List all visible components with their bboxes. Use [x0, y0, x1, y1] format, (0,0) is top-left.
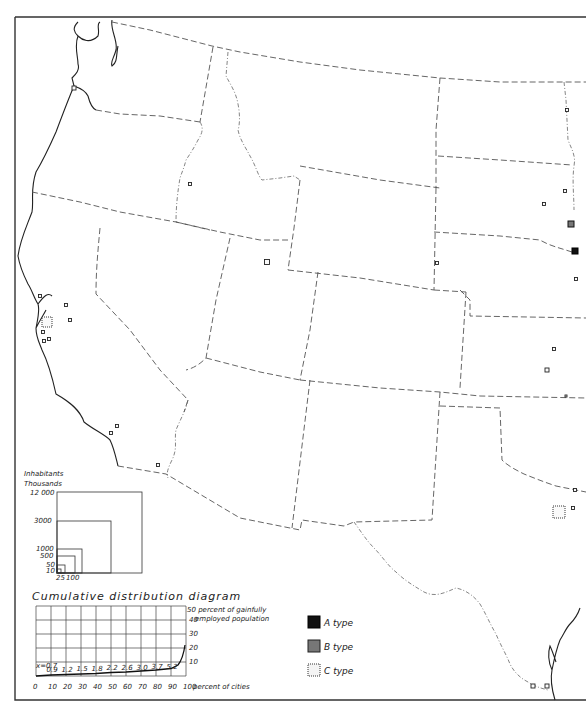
y-tick-label: 20 [189, 644, 198, 652]
x-tick-label: 60 [123, 683, 132, 691]
point-label: 3.0 [137, 664, 149, 672]
y-axis-title-1: 50 percent of gainfully [187, 606, 267, 614]
x-tick-label: 90 [168, 683, 177, 691]
legend-swatch-a [308, 616, 320, 628]
size-diagram-title-2: Thousands [24, 480, 62, 488]
size-diagram: Inhabitants Thousands 12 000 3000 1000 5… [24, 470, 142, 582]
legend-label-c: C type [324, 666, 354, 676]
point-label: 2.6 [122, 664, 134, 672]
map-canvas: Inhabitants Thousands 12 000 3000 1000 5… [0, 0, 586, 709]
cumulative-diagram: Cumulative distribution diagram x=0.7 50… [32, 590, 269, 691]
square-500 [57, 556, 75, 573]
point-label: 5.2 [167, 663, 179, 671]
city-marker-c [116, 425, 119, 428]
city-marker-c [110, 432, 113, 435]
point-label: 1.8 [92, 665, 104, 673]
x-axis-suffix: percent of cities [192, 683, 250, 691]
city-marker-c [574, 489, 577, 492]
city-marker-c [69, 319, 72, 322]
city-marker-c [545, 368, 549, 372]
point-label: 1.2 [62, 666, 74, 674]
y-label-500: 500 [40, 552, 54, 560]
y-label-3000: 3000 [34, 517, 52, 525]
city-marker-c [43, 340, 46, 343]
city-marker-c [572, 507, 575, 510]
point-label: 2.2 [107, 664, 119, 672]
city-marker-c [157, 464, 160, 467]
x-tick-label: 50 [108, 683, 117, 691]
city-marker-c [42, 331, 45, 334]
x-tick-label: 30 [78, 683, 87, 691]
cumulative-title: Cumulative distribution diagram [32, 590, 241, 603]
y-axis-title-2: employed population [195, 615, 269, 623]
cumulative-labels: 0102030405060708090100403020100.91.21.51… [33, 616, 198, 691]
legend-label-a: A type [323, 618, 354, 628]
city-marker-b [568, 221, 574, 227]
point-label: 3.7 [152, 663, 164, 671]
y-label-10: 10 [46, 567, 55, 575]
x-tick-label: 10 [48, 683, 57, 691]
city-marker-c [65, 304, 68, 307]
city-marker-c [48, 338, 51, 341]
square-12000 [57, 492, 142, 573]
city-marker-c [575, 278, 578, 281]
city-marker-c [565, 395, 567, 397]
legend-swatch-b [308, 640, 320, 652]
city-marker-c [72, 86, 76, 90]
x-tick-label: 80 [153, 683, 162, 691]
legend-swatch-c [308, 664, 320, 676]
x-tick-label: 20 [63, 683, 72, 691]
y-tick-label: 30 [189, 630, 198, 638]
city-marker-c [543, 203, 546, 206]
legend-label-b: B type [324, 642, 354, 652]
gulf-coastline [549, 608, 580, 700]
point-label: 0.9 [47, 666, 59, 674]
city-marker-c [545, 684, 549, 688]
city-marker-c [39, 295, 42, 298]
x-tick-label: 40 [93, 683, 102, 691]
y-label-12000: 12 000 [30, 489, 55, 497]
city-marker-c [564, 190, 567, 193]
city-marker-c [553, 348, 556, 351]
size-diagram-title-1: Inhabitants [24, 470, 64, 478]
canada-border [112, 22, 586, 82]
city-marker-c [189, 183, 192, 186]
city-marker-c [553, 506, 565, 518]
y-tick-label: 40 [189, 616, 198, 624]
x-tick-label: 70 [138, 683, 147, 691]
city-marker-c [436, 262, 439, 265]
square-10 [57, 569, 61, 573]
point-label: 1.5 [77, 665, 89, 673]
pacific-coastline [18, 20, 118, 466]
city-marker-c [566, 109, 569, 112]
city-marker-a [572, 248, 578, 254]
legend: A type B type C type [308, 616, 354, 676]
y-tick-label: 10 [189, 658, 198, 666]
city-marker-c [265, 260, 270, 265]
x-label-100: 100 [66, 574, 80, 582]
city-marker-c [531, 684, 535, 688]
x-tick-label: 0 [33, 683, 38, 691]
city-marker-c [42, 317, 52, 327]
x-label-25: 25 [56, 574, 65, 582]
